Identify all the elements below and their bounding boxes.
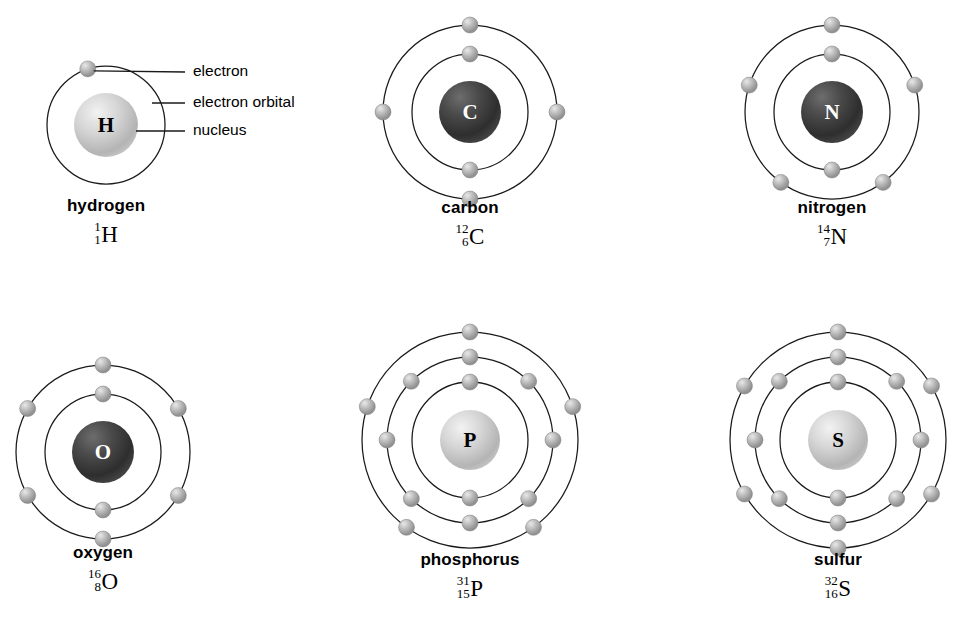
mass-number: 31 [457, 574, 470, 587]
element-symbol: O [101, 569, 118, 594]
electron [403, 491, 419, 507]
electron [549, 104, 565, 120]
electron [889, 491, 905, 507]
atom-model-phosphorus: P [340, 310, 600, 570]
electron [824, 17, 840, 33]
isotope-numbers: 168 [88, 567, 101, 594]
electron [95, 386, 111, 402]
electron [170, 488, 186, 504]
caption-hydrogen: hydrogen11H [0, 197, 231, 248]
nucleus-symbol: O [95, 440, 111, 464]
element-name: phosphorus [340, 551, 600, 568]
nucleus-symbol: S [832, 428, 844, 452]
caption-sulfur: sulfur3216S [708, 551, 960, 602]
nucleus-symbol: H [98, 113, 114, 137]
electron [736, 486, 752, 502]
isotope-line: 126C [345, 216, 595, 250]
mass-number: 32 [825, 574, 838, 587]
electron [824, 162, 840, 178]
atom-phosphorus: P [340, 310, 600, 570]
electron [565, 399, 581, 415]
isotope-line: 3115P [340, 568, 600, 602]
electron [95, 502, 111, 518]
electron [889, 373, 905, 389]
electron [375, 104, 391, 120]
isotope-notation: 11H [94, 221, 118, 248]
electron [830, 349, 846, 365]
element-symbol: P [470, 576, 483, 601]
isotope-numbers: 3216 [825, 574, 838, 601]
electron [359, 399, 375, 415]
atom-oxygen: O [0, 327, 228, 577]
electron [824, 46, 840, 62]
atomic-structure-diagram: Hhydrogen11HCcarbon126CNnitrogen147NOoxy… [0, 0, 960, 626]
mass-number: 12 [456, 222, 469, 235]
electron [521, 373, 537, 389]
electron [924, 486, 940, 502]
electron [20, 401, 36, 417]
electron [747, 432, 763, 448]
electron [924, 378, 940, 394]
electron [830, 374, 846, 390]
electron [771, 373, 787, 389]
atom-model-sulfur: S [708, 310, 960, 570]
electron [462, 324, 478, 340]
electron [399, 519, 415, 535]
isotope-notation: 3216S [825, 575, 851, 602]
nucleus-symbol: P [464, 428, 477, 452]
electron [525, 519, 541, 535]
mass-number: 1 [94, 220, 101, 233]
electron [913, 432, 929, 448]
electron [830, 515, 846, 531]
electron [830, 324, 846, 340]
caption-carbon: carbon126C [345, 199, 595, 250]
atom-sulfur: S [708, 310, 960, 570]
element-name: hydrogen [0, 197, 231, 214]
mass-number: 14 [817, 222, 830, 235]
atom-model-oxygen: O [0, 327, 228, 577]
element-name: sulfur [708, 551, 960, 568]
element-name: oxygen [0, 544, 228, 561]
isotope-numbers: 3115 [457, 574, 470, 601]
electron [462, 17, 478, 33]
atomic-number: 15 [457, 587, 470, 600]
isotope-notation: 168O [88, 568, 118, 595]
nucleus-symbol: N [824, 100, 839, 124]
electron [95, 357, 111, 373]
atomic-number: 16 [825, 587, 838, 600]
isotope-notation: 147N [817, 223, 847, 250]
caption-phosphorus: phosphorus3115P [340, 551, 600, 602]
isotope-line: 168O [0, 561, 228, 595]
electron [771, 491, 787, 507]
electron [462, 162, 478, 178]
atomic-number: 7 [823, 235, 830, 248]
electron [907, 77, 923, 93]
isotope-numbers: 11 [94, 220, 101, 247]
element-symbol: C [469, 224, 484, 249]
electron [379, 432, 395, 448]
electron [462, 46, 478, 62]
nucleus-symbol: C [462, 100, 477, 124]
electron [462, 349, 478, 365]
atomic-number: 1 [94, 233, 101, 246]
caption-oxygen: oxygen168O [0, 544, 228, 595]
isotope-line: 147N [707, 216, 957, 250]
electron [875, 174, 891, 190]
electron [521, 491, 537, 507]
caption-nitrogen: nitrogen147N [707, 199, 957, 250]
electron [830, 490, 846, 506]
callout-label-electron: electron [193, 63, 248, 79]
electron [403, 373, 419, 389]
element-symbol: S [838, 576, 851, 601]
element-symbol: H [101, 222, 118, 247]
electron [170, 401, 186, 417]
isotope-numbers: 126 [456, 222, 469, 249]
isotope-line: 3216S [708, 568, 960, 602]
isotope-line: 11H [0, 214, 231, 248]
atomic-number: 8 [94, 580, 101, 593]
isotope-notation: 126C [456, 223, 485, 250]
electron [741, 77, 757, 93]
electron [20, 488, 36, 504]
isotope-numbers: 147 [817, 222, 830, 249]
electron [462, 374, 478, 390]
